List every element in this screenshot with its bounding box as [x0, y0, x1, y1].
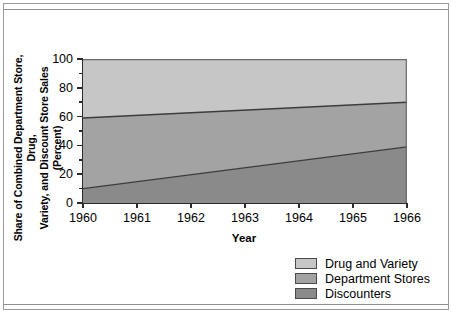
stacked-area-svg	[83, 59, 407, 203]
x-tick	[298, 203, 300, 208]
legend-divider-rule	[4, 304, 448, 305]
x-tick-label: 1966	[380, 211, 434, 225]
legend-swatch-icon	[295, 288, 317, 299]
legend-label: Department Stores	[325, 272, 430, 286]
x-tick	[190, 203, 192, 208]
y-tick-label: 100	[33, 52, 73, 66]
y-tick-label: 80	[33, 81, 73, 95]
x-tick-label: 1960	[56, 211, 110, 225]
x-tick	[244, 203, 246, 208]
y-tick-major	[77, 145, 83, 147]
y-tick-label: 0	[33, 196, 73, 210]
y-tick-label: 60	[33, 110, 73, 124]
y-tick-label: 40	[33, 138, 73, 152]
y-tick-major	[77, 87, 83, 89]
y-tick-major	[77, 116, 83, 118]
y-tick-minor	[79, 101, 83, 103]
y-tick-minor	[79, 159, 83, 161]
y-tick-label: 20	[33, 167, 73, 181]
x-tick-label: 1965	[326, 211, 380, 225]
x-tick-label: 1962	[164, 211, 218, 225]
legend-label: Drug and Variety	[325, 257, 418, 271]
y-tick-major	[77, 173, 83, 175]
chart-figure: Share of Combined Department Store, Drug…	[0, 0, 452, 313]
plot-area: 100806040200 196019611962196319641965196…	[82, 59, 407, 204]
x-tick	[136, 203, 138, 208]
y-tick-major	[77, 58, 83, 60]
x-tick	[406, 203, 408, 208]
x-tick-label: 1961	[110, 211, 164, 225]
x-axis-title: Year	[82, 232, 406, 244]
x-tick-label: 1964	[272, 211, 326, 225]
x-tick	[82, 203, 84, 208]
y-tick-minor	[79, 130, 83, 132]
legend-item: Discounters	[295, 286, 430, 301]
x-tick	[352, 203, 354, 208]
legend-swatch-icon	[295, 273, 317, 284]
y-tick-minor	[79, 73, 83, 75]
x-tick-label: 1963	[218, 211, 272, 225]
legend-item: Department Stores	[295, 271, 430, 286]
top-divider-rule	[4, 9, 448, 10]
legend-label: Discounters	[325, 287, 391, 301]
legend-item: Drug and Variety	[295, 256, 430, 271]
chart-legend: Drug and VarietyDepartment StoresDiscoun…	[295, 256, 430, 301]
legend-swatch-icon	[295, 258, 317, 269]
y-tick-minor	[79, 188, 83, 190]
